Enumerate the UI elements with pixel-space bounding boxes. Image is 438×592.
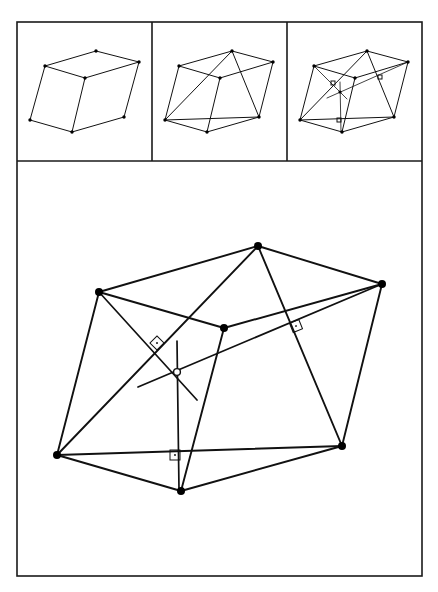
geometry-figure: [0, 0, 438, 592]
edge-BA: [30, 66, 45, 120]
edge-AF: [165, 117, 259, 120]
vertex-E: [406, 60, 409, 63]
vertex-C: [254, 242, 262, 250]
vertex-F: [392, 115, 395, 118]
edge-DE: [224, 284, 382, 328]
vertex-A: [53, 451, 61, 459]
edge-CE: [258, 246, 382, 284]
vertex-G: [205, 130, 208, 133]
panel-perpendiculars: [298, 49, 409, 133]
edge-CF: [232, 51, 259, 117]
vertex-E: [378, 280, 386, 288]
vertex-D: [83, 76, 86, 79]
vertex-A: [163, 118, 166, 121]
edge-AC: [57, 246, 258, 455]
outer-frame: [17, 22, 422, 576]
vertex-F: [122, 115, 125, 118]
vertex-E: [271, 60, 274, 63]
edge-AG: [57, 455, 181, 491]
vertex-G: [177, 487, 185, 495]
edge-BD: [179, 66, 220, 78]
edge-AF: [57, 446, 342, 455]
vertex-D: [220, 324, 228, 332]
edge-CE: [232, 51, 273, 62]
edge-CE: [96, 51, 139, 62]
vertex-F: [338, 442, 346, 450]
edge-CF: [367, 51, 394, 117]
panel-parallelepiped: [28, 49, 140, 133]
edge-GF: [72, 117, 124, 132]
edge-AF: [300, 117, 394, 120]
edge-DE: [220, 62, 273, 78]
edge-BC: [99, 246, 258, 292]
edge-DG: [207, 78, 220, 132]
edge-AG: [165, 120, 207, 132]
edge-FE: [342, 284, 382, 446]
perp-vertical: [177, 341, 179, 490]
edge-BA: [300, 66, 314, 120]
panel-enlarged-construction: [53, 242, 386, 495]
vertex-B: [43, 64, 46, 67]
edge-FE: [259, 62, 273, 117]
vertex-G: [70, 130, 73, 133]
edge-DE: [85, 62, 139, 78]
vertex-D: [353, 76, 356, 79]
vertex-B: [312, 64, 315, 67]
vertex-A: [298, 118, 301, 121]
edge-FE: [124, 62, 139, 117]
vertex-D: [218, 76, 221, 79]
edge-BC: [45, 51, 96, 66]
vertex-F: [257, 115, 260, 118]
ra-marker-1: [150, 336, 164, 350]
figure-frame: [17, 22, 422, 576]
edge-FE: [394, 62, 408, 117]
vertex-C: [230, 49, 233, 52]
edge-BD: [99, 292, 224, 328]
edge-GF: [207, 117, 259, 132]
point-O: [338, 90, 341, 93]
center-point-O: [174, 369, 181, 376]
perpendicular-2: [340, 82, 341, 132]
vertex-E: [137, 60, 140, 63]
edge-BA: [165, 66, 179, 120]
perp-from-B: [99, 292, 197, 400]
edge-BD: [45, 66, 85, 78]
edge-CE: [367, 51, 408, 62]
vertex-C: [365, 49, 368, 52]
edge-DG: [181, 328, 224, 491]
edge-AG: [300, 120, 342, 132]
vertex-G: [340, 130, 343, 133]
edge-CF: [258, 246, 342, 446]
edge-AG: [30, 120, 72, 132]
edge-DG: [72, 78, 85, 132]
vertex-C: [94, 49, 97, 52]
panel-tetrahedron: [163, 49, 274, 133]
vertex-B: [95, 288, 103, 296]
edge-AB: [57, 292, 99, 455]
edge-GF: [181, 446, 342, 491]
edge-GF: [342, 117, 394, 132]
vertex-B: [177, 64, 180, 67]
edge-AC: [165, 51, 232, 120]
vertex-A: [28, 118, 31, 121]
